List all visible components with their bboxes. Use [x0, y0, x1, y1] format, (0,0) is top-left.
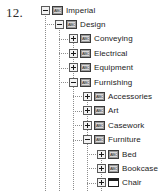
- tree-node[interactable]: ABCArt: [83, 104, 119, 118]
- expand-plus-icon[interactable]: [83, 121, 92, 130]
- folder-abc-icon: ABC: [94, 135, 105, 144]
- tree-node[interactable]: ABCChair: [97, 176, 142, 190]
- tree-node-label: Conveying: [94, 34, 133, 43]
- icon-abc-text: ABC: [110, 152, 117, 157]
- tree-node-label: Accessories: [108, 92, 152, 101]
- tree-node[interactable]: ABCDesign: [55, 17, 106, 31]
- folder-abc-icon: ABC: [80, 34, 91, 43]
- expand-plus-icon[interactable]: [69, 34, 78, 43]
- tree-node[interactable]: ABCFurniture: [83, 133, 141, 147]
- folder-abc-icon: ABC: [94, 106, 105, 115]
- tree-node-label: Equipment: [94, 63, 133, 72]
- tree-node-label: Furniture: [108, 135, 141, 144]
- tree-node-label: Bed: [122, 150, 137, 159]
- tree-connector-line: [59, 68, 69, 69]
- tree-connector-line: [87, 183, 97, 184]
- collapse-minus-icon[interactable]: [69, 78, 78, 87]
- tree-connector-line: [59, 24, 60, 191]
- collapse-minus-icon[interactable]: [83, 135, 92, 144]
- tree-node[interactable]: ABCImperial: [41, 3, 95, 17]
- icon-abc-text: ABC: [96, 137, 103, 142]
- folder-abc-icon: ABC: [94, 92, 105, 101]
- tree-node-label: Casework: [108, 121, 144, 130]
- tree-node[interactable]: ABCAccessories: [83, 89, 152, 103]
- icon-abc-text: ABC: [82, 65, 89, 70]
- tree-node[interactable]: ABCBed: [97, 147, 137, 161]
- tree-node-label: Imperial: [66, 6, 95, 15]
- icon-abc-text: ABC: [82, 80, 89, 85]
- tree-connector-line: [73, 140, 83, 141]
- tree-connector-line: [59, 53, 69, 54]
- tree-node-label: Electrical: [94, 49, 127, 58]
- icon-abc-text: ABC: [82, 36, 89, 41]
- icon-abc-text: ABC: [54, 8, 61, 13]
- icon-abc-text: ABC: [96, 94, 103, 99]
- collapse-minus-icon[interactable]: [41, 6, 50, 15]
- icon-abc-text: ABC: [96, 123, 103, 128]
- icon-abc-text: ABC: [110, 180, 117, 185]
- expand-plus-icon[interactable]: [83, 92, 92, 101]
- icon-abc-text: ABC: [82, 51, 89, 56]
- tree-connector-line: [73, 125, 83, 126]
- tree-node-label: Art: [108, 106, 119, 115]
- icon-abc-text: ABC: [96, 108, 103, 113]
- tree-connector-line: [59, 39, 69, 40]
- folder-abc-icon: ABC: [80, 49, 91, 58]
- folder-open-icon: ABC: [108, 178, 119, 187]
- tree-connector-line: [59, 82, 69, 83]
- expand-plus-icon[interactable]: [97, 150, 106, 159]
- tree-node[interactable]: ABCBookcase: [97, 161, 158, 175]
- tree-connector-line: [73, 111, 83, 112]
- folder-abc-icon: ABC: [52, 6, 63, 15]
- folder-abc-icon: ABC: [80, 63, 91, 72]
- tree-node[interactable]: ABCFurnishing: [69, 75, 132, 89]
- tree-node-label: Bookcase: [122, 164, 158, 173]
- tree-node[interactable]: ABCElectrical: [69, 46, 127, 60]
- tree-connector-line: [45, 10, 46, 191]
- expand-plus-icon[interactable]: [97, 178, 106, 187]
- icon-abc-text: ABC: [110, 166, 117, 171]
- expand-plus-icon[interactable]: [69, 49, 78, 58]
- folder-abc-icon: ABC: [108, 150, 119, 159]
- expand-plus-icon[interactable]: [69, 63, 78, 72]
- tree-node-label: Chair: [122, 178, 142, 187]
- tree-node[interactable]: ABCCasework: [83, 118, 144, 132]
- tree-node-label: Design: [80, 20, 106, 29]
- tree-connector-line: [87, 154, 97, 155]
- tree-node[interactable]: ABCCredenza: [97, 190, 158, 191]
- folder-abc-icon: ABC: [66, 20, 77, 29]
- folder-abc-icon: ABC: [108, 164, 119, 173]
- tree-connector-line: [73, 96, 83, 97]
- folder-abc-icon: ABC: [80, 78, 91, 87]
- tree-connector-line: [45, 24, 55, 25]
- icon-abc-text: ABC: [68, 22, 75, 27]
- collapse-minus-icon[interactable]: [55, 20, 64, 29]
- expand-plus-icon[interactable]: [97, 164, 106, 173]
- folder-abc-icon: ABC: [94, 121, 105, 130]
- tree-node-label: Furnishing: [94, 78, 132, 87]
- expand-plus-icon[interactable]: [83, 106, 92, 115]
- tree-view[interactable]: ABCImperialABCDesignABCConveyingABCElect…: [0, 0, 166, 191]
- tree-connector-line: [87, 168, 97, 169]
- tree-node[interactable]: ABCEquipment: [69, 61, 133, 75]
- tree-node[interactable]: ABCConveying: [69, 32, 133, 46]
